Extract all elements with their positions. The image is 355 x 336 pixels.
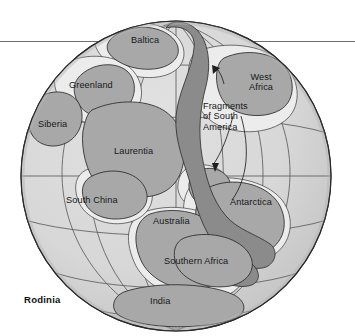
label-india: India <box>150 296 170 306</box>
rodinia-figure: Baltica Greenland West Africa Siberia Fr… <box>0 0 355 336</box>
label-fragments-of-south-america: Fragments of South America <box>203 101 248 132</box>
label-fragments-line1: Fragments <box>203 101 248 111</box>
label-baltica: Baltica <box>131 35 159 45</box>
label-west-africa: West Africa <box>249 72 273 93</box>
label-antarctica: Antarctica <box>230 197 272 207</box>
label-southern-africa: Southern Africa <box>164 256 228 266</box>
figure-caption: Rodinia <box>24 294 61 305</box>
label-greenland: Greenland <box>69 80 113 90</box>
label-west-africa-line1: West <box>250 72 271 82</box>
label-australia: Australia <box>153 216 190 226</box>
globe-diagram <box>0 0 355 336</box>
label-south-china: South China <box>66 195 118 205</box>
label-west-africa-line2: Africa <box>249 82 273 92</box>
label-laurentia: Laurentia <box>114 146 153 156</box>
label-fragments-line2: of South <box>203 111 238 121</box>
label-siberia: Siberia <box>38 119 67 129</box>
label-fragments-line3: America <box>203 122 237 132</box>
